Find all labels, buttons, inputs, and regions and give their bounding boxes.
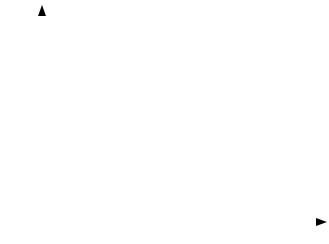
oscillator-diagram <box>0 0 329 244</box>
y-axis-arrow-icon <box>38 5 46 16</box>
x-axis-arrow-icon <box>316 218 327 226</box>
axes <box>38 5 327 226</box>
